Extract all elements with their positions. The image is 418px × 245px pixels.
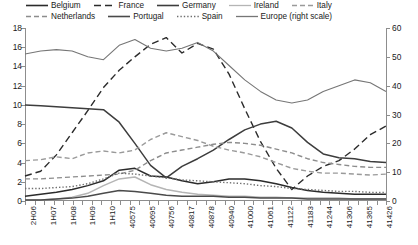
series-line-germany xyxy=(25,105,386,178)
series-line-belgium xyxy=(25,168,386,196)
chart-plot-area xyxy=(0,0,418,245)
series-line-france xyxy=(25,38,386,190)
chart-root: BelgiumFranceGermanyIrelandItaly Netherl… xyxy=(0,0,418,245)
series-line-netherlands xyxy=(25,142,386,179)
series-line-europe-right-scale xyxy=(25,40,386,103)
